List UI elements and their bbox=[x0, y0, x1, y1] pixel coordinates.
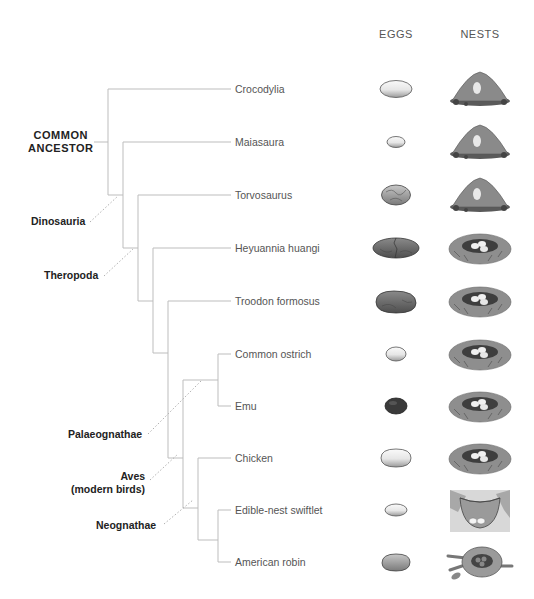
eggs-column-header: EGGS bbox=[366, 28, 426, 40]
taxon-label-robin: American robin bbox=[235, 556, 306, 568]
nest-icon-cup-swiftlet bbox=[446, 488, 514, 534]
theropoda-label: Theropoda bbox=[44, 269, 98, 282]
nest-icon-bowl-troodon bbox=[444, 282, 516, 322]
egg-icon-common-ostrich bbox=[366, 335, 426, 375]
aves-line1: Aves bbox=[71, 470, 145, 483]
egg-icon-maiasaura bbox=[366, 123, 426, 163]
taxon-label-troodon: Troodon formosus bbox=[235, 295, 320, 307]
taxon-label-emu: Emu bbox=[235, 400, 257, 412]
taxon-label-common-ostrich: Common ostrich bbox=[235, 348, 311, 360]
nest-icon-bowl-chicken bbox=[444, 439, 516, 479]
dinosauria-label: Dinosauria bbox=[31, 215, 85, 228]
egg-icon-swiftlet bbox=[366, 491, 426, 531]
aves-line2: (modern birds) bbox=[71, 483, 145, 496]
taxon-label-crocodylia: Crocodylia bbox=[235, 83, 285, 95]
nest-icon-mound-crocodylia bbox=[444, 66, 516, 112]
common-ancestor-line1: COMMON bbox=[28, 129, 94, 142]
aves-label: Aves (modern birds) bbox=[71, 470, 145, 496]
palaeognathae-label: Palaeognathae bbox=[68, 428, 142, 441]
nest-icon-mound-maiasaura bbox=[444, 119, 516, 165]
common-ancestor-line2: ANCESTOR bbox=[28, 142, 94, 155]
taxon-label-chicken: Chicken bbox=[235, 452, 273, 464]
nests-column-header: NESTS bbox=[450, 28, 510, 40]
nest-icon-twig-robin bbox=[446, 542, 514, 584]
common-ancestor-label: COMMON ANCESTOR bbox=[28, 129, 94, 155]
egg-icon-emu bbox=[366, 387, 426, 427]
taxon-label-maiasaura: Maiasaura bbox=[235, 136, 284, 148]
nest-icon-bowl-common-ostrich bbox=[444, 335, 516, 375]
neognathae-label: Neognathae bbox=[96, 519, 156, 532]
nest-icon-mound-torvosaurus bbox=[444, 172, 516, 218]
egg-icon-heyuannia bbox=[366, 229, 426, 269]
egg-icon-chicken bbox=[366, 439, 426, 479]
taxon-label-heyuannia: Heyuannia huangi bbox=[235, 242, 320, 254]
nest-icon-bowl-heyuannia bbox=[444, 229, 516, 269]
egg-icon-torvosaurus bbox=[366, 176, 426, 216]
nest-icon-bowl-emu bbox=[444, 387, 516, 427]
taxon-label-torvosaurus: Torvosaurus bbox=[235, 189, 292, 201]
taxon-label-swiftlet: Edible-nest swiftlet bbox=[235, 504, 323, 516]
egg-icon-robin bbox=[366, 543, 426, 583]
egg-icon-troodon bbox=[366, 282, 426, 322]
egg-icon-crocodylia bbox=[366, 70, 426, 110]
